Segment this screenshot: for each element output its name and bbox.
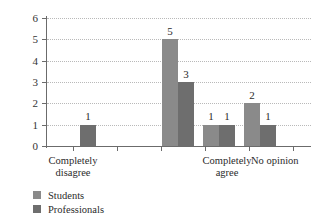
gridline-6	[47, 18, 311, 19]
x-tick-6	[293, 147, 294, 151]
x-axis-label-completely-agree-line2: agree	[183, 167, 271, 179]
x-axis-label-completely-disagree-line1: Completely	[29, 155, 117, 167]
bar-value-professionals-cat5: 1	[259, 111, 277, 122]
bar-value-professionals-cat1: 1	[79, 111, 97, 122]
x-axis-label-no-opinion: No opinion	[251, 155, 321, 167]
legend: Students Professionals	[33, 188, 104, 216]
y-tick-6	[42, 18, 46, 19]
y-axis-label-0: 0	[10, 141, 38, 152]
legend-swatch-professionals-icon	[33, 205, 41, 213]
y-axis-label-6: 6	[10, 13, 38, 24]
y-tick-3	[42, 82, 46, 83]
y-tick-4	[42, 61, 46, 62]
bar-value-students-cat5: 2	[243, 90, 261, 101]
x-tick-5	[249, 147, 250, 151]
bar-value-students-cat3: 5	[161, 26, 179, 37]
bar-students-cat5	[244, 103, 260, 146]
y-axis-label-3: 3	[10, 77, 38, 88]
x-tick-4	[205, 147, 206, 151]
y-axis-label-1: 1	[10, 120, 38, 131]
gridline-4	[47, 61, 311, 62]
x-axis-label-completely-disagree-line2: disagree	[29, 167, 117, 179]
y-axis-label-5: 5	[10, 34, 38, 45]
bar-professionals-cat5	[260, 125, 276, 146]
x-axis-label-completely-disagree: Completely disagree	[29, 155, 117, 179]
bar-professionals-cat1	[80, 125, 96, 146]
bar-value-professionals-cat3: 3	[177, 69, 195, 80]
bar-professionals-cat4	[219, 125, 235, 146]
legend-swatch-students-icon	[33, 191, 41, 199]
y-tick-1	[42, 125, 46, 126]
bar-professionals-cat3	[178, 82, 194, 146]
y-tick-2	[42, 103, 46, 104]
y-axis-label-4: 4	[10, 56, 38, 67]
x-tick-1	[73, 147, 74, 151]
y-axis-label-2: 2	[10, 98, 38, 109]
bar-students-cat4	[203, 125, 219, 146]
y-tick-0	[42, 146, 46, 147]
x-tick-3	[161, 147, 162, 151]
bar-students-cat3	[162, 39, 178, 146]
legend-label-students: Students	[48, 190, 84, 201]
x-axis-line	[46, 146, 311, 147]
x-tick-2	[117, 147, 118, 151]
y-axis-line	[46, 16, 47, 148]
legend-item-professionals: Professionals	[33, 202, 104, 216]
gridline-5	[47, 39, 311, 40]
legend-label-professionals: Professionals	[48, 204, 104, 215]
legend-item-students: Students	[33, 188, 104, 202]
bar-value-professionals-cat4: 1	[218, 111, 236, 122]
plot-area	[47, 18, 311, 146]
y-tick-5	[42, 39, 46, 40]
bar-chart: 6 5 4 3 2 1 0 1 5 3 1 1 2 1 Completely d…	[0, 0, 321, 219]
